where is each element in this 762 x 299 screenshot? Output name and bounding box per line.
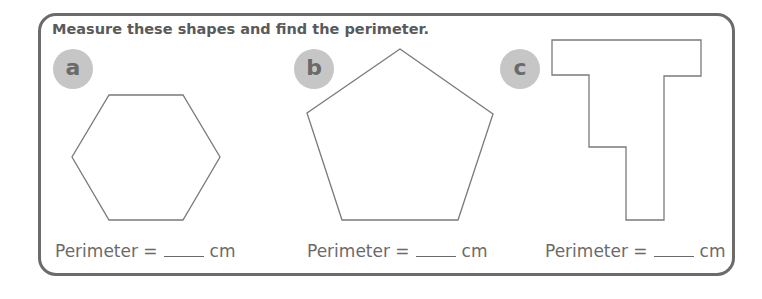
unit-label: cm bbox=[210, 241, 236, 261]
pentagon-shape bbox=[307, 49, 493, 220]
unit-label: cm bbox=[462, 241, 488, 261]
problem-a-answer-line: Perimeter =cm bbox=[55, 241, 236, 261]
perimeter-label: Perimeter = bbox=[55, 241, 158, 261]
unit-label: cm bbox=[700, 241, 726, 261]
answer-blank-b[interactable] bbox=[416, 242, 456, 257]
answer-blank-a[interactable] bbox=[164, 242, 204, 257]
answer-blank-c[interactable] bbox=[654, 242, 694, 257]
problem-b-answer-line: Perimeter =cm bbox=[307, 241, 488, 261]
perimeter-label: Perimeter = bbox=[545, 241, 648, 261]
t-shape bbox=[552, 40, 701, 220]
hexagon-shape bbox=[72, 95, 220, 220]
perimeter-label: Perimeter = bbox=[307, 241, 410, 261]
problem-c-answer-line: Perimeter =cm bbox=[545, 241, 726, 261]
